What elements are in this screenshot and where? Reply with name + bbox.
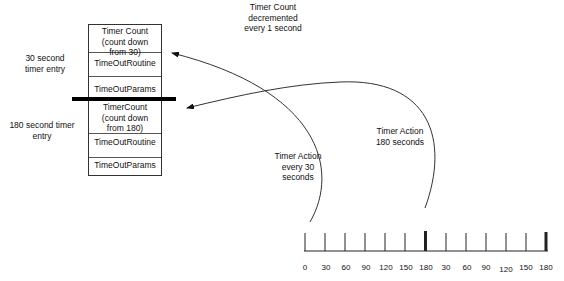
timeline — [304, 231, 548, 251]
timer-action-180-label: Timer Action 180 seconds — [362, 126, 438, 147]
timer-action-30-label: Timer Action every 30 seconds — [268, 151, 328, 183]
tick-label: 180 — [534, 263, 558, 272]
action-30-line3: seconds — [268, 172, 328, 183]
arrows-layer — [0, 0, 564, 281]
action-30-line2: every 30 — [268, 162, 328, 173]
action-30-line1: Timer Action — [268, 151, 328, 162]
action-180-line2: 180 seconds — [362, 137, 438, 148]
arrow-30-curve — [172, 53, 322, 222]
action-180-line1: Timer Action — [362, 126, 438, 137]
